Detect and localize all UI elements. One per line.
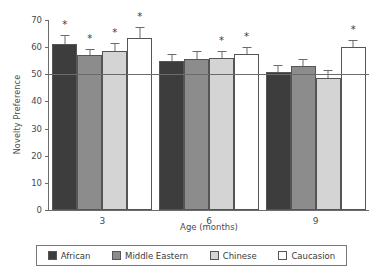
error-bar-cap [192, 51, 201, 52]
bar-group: ****3 [49, 20, 156, 210]
bar-rect [266, 72, 291, 210]
y-tick-label: 0 [37, 205, 42, 215]
legend-item[interactable]: African [48, 251, 91, 261]
bar-caucasion[interactable]: * [234, 20, 259, 210]
error-bar [64, 35, 65, 45]
y-tick-label: 30 [31, 124, 42, 134]
bar-chinese[interactable]: * [102, 20, 127, 210]
bar-african[interactable] [159, 20, 184, 210]
y-tick-label: 10 [31, 178, 42, 188]
plot-area: 010203040506070 ****3**6*9 [49, 20, 369, 210]
legend-label: Chinese [223, 251, 257, 261]
bar-group: *9 [262, 20, 369, 210]
error-bar-cap [242, 47, 251, 48]
y-tick-label: 40 [31, 96, 42, 106]
y-axis-title: Novelty Preference [13, 40, 22, 190]
legend-swatch [278, 251, 287, 260]
bar-chinese[interactable] [316, 20, 341, 210]
bar-caucasion[interactable]: * [127, 20, 152, 210]
error-bar-cap [299, 59, 308, 60]
y-tick-label: 20 [31, 151, 42, 161]
legend-item[interactable]: Chinese [210, 251, 257, 261]
novelty-preference-bar-chart: Novelty Preference 010203040506070 ****3… [0, 0, 383, 278]
y-tick-label: 50 [31, 69, 42, 79]
error-bar-cap [274, 65, 283, 66]
significance-asterisk: * [87, 36, 92, 42]
error-bar [114, 43, 115, 51]
legend-item[interactable]: Caucasion [278, 251, 335, 261]
error-bar [221, 51, 222, 58]
legend-swatch [48, 251, 57, 260]
bars-container: **** [49, 20, 156, 210]
error-bar-cap [85, 49, 94, 50]
bar-rect [341, 47, 366, 210]
legend-swatch [210, 251, 219, 260]
significance-asterisk: * [112, 30, 117, 36]
bar-middle-eastern[interactable] [291, 20, 316, 210]
bar-rect [127, 38, 152, 210]
error-bar [246, 47, 247, 54]
bar-caucasion[interactable]: * [341, 20, 366, 210]
legend-swatch [112, 251, 121, 260]
error-bar-cap [324, 70, 333, 71]
error-bar [139, 27, 140, 38]
error-bar-cap [217, 51, 226, 52]
error-bar-cap [167, 54, 176, 55]
bar-rect [184, 59, 209, 210]
bar-african[interactable] [266, 20, 291, 210]
bar-rect [234, 54, 259, 210]
bar-rect [77, 55, 102, 210]
bars-container: * [262, 20, 369, 210]
error-bar [89, 49, 90, 56]
bar-rect [52, 44, 77, 210]
reference-line-50 [48, 74, 369, 75]
error-bar-cap [349, 40, 358, 41]
x-axis-line [48, 210, 369, 211]
bar-rect [159, 61, 184, 210]
legend-item[interactable]: Middle Eastern [112, 251, 188, 261]
bar-rect [291, 66, 316, 210]
significance-asterisk: * [137, 14, 142, 20]
bar-middle-eastern[interactable] [184, 20, 209, 210]
error-bar-cap [135, 27, 144, 28]
y-tick-label: 70 [31, 15, 42, 25]
bar-groups: ****3**6*9 [49, 20, 369, 210]
legend-label: Middle Eastern [125, 251, 188, 261]
bar-chinese[interactable]: * [209, 20, 234, 210]
y-tick-label: 60 [31, 42, 42, 52]
significance-asterisk: * [244, 34, 249, 40]
bars-container: ** [156, 20, 263, 210]
significance-asterisk: * [219, 38, 224, 44]
bar-middle-eastern[interactable]: * [77, 20, 102, 210]
error-bar [171, 54, 172, 61]
bar-rect [209, 58, 234, 210]
legend-label: Caucasion [291, 251, 335, 261]
error-bar-cap [60, 35, 69, 36]
error-bar [303, 59, 304, 66]
error-bar [196, 51, 197, 59]
bar-group: **6 [156, 20, 263, 210]
error-bar [353, 40, 354, 47]
significance-asterisk: * [62, 22, 67, 28]
bar-rect [316, 78, 341, 210]
error-bar [278, 65, 279, 72]
bar-african[interactable]: * [52, 20, 77, 210]
x-axis-title: Age (months) [49, 222, 369, 232]
chart-legend: AfricanMiddle EasternChineseCaucasion [36, 245, 347, 266]
y-tick [45, 210, 49, 211]
error-bar-cap [110, 43, 119, 44]
significance-asterisk: * [351, 27, 356, 33]
legend-label: African [61, 251, 91, 261]
